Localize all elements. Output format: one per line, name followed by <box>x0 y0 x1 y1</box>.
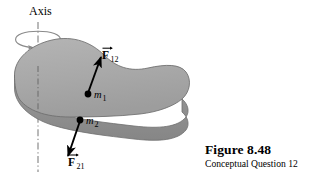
figure-caption-title: Figure 8.48 <box>205 142 313 157</box>
force-f12-subscript: 12 <box>111 55 119 64</box>
mass-point-m2 <box>77 117 84 124</box>
mass-m2-label: m <box>86 115 94 126</box>
figure-caption: Figure 8.48 Conceptual Question 12 <box>205 142 313 169</box>
axis-label: Axis <box>29 4 52 18</box>
force-f21-label: F <box>68 156 75 168</box>
force-f12-label: F <box>102 49 109 61</box>
figure-container: Axis F 12 F 21 m 1 m 2 Figure 8.48 Conce… <box>0 0 313 186</box>
figure-caption-subtitle: Conceptual Question 12 <box>205 158 313 169</box>
mass-m2-subscript: 2 <box>95 120 99 129</box>
mass-point-m1 <box>85 91 92 98</box>
mass-m1-label: m <box>94 89 102 100</box>
mass-m1-subscript: 1 <box>103 94 107 103</box>
force-f21-label-group: F 21 <box>68 153 85 171</box>
force-f21-subscript: 21 <box>77 162 85 171</box>
